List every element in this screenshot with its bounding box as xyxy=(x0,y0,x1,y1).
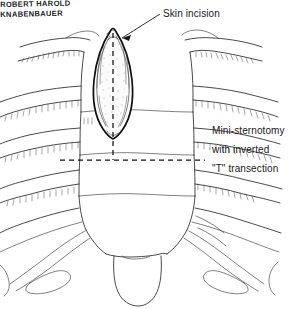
illustration-canvas: Skin incision Mini-sternotomy with inver… xyxy=(0,0,301,309)
procedure-note-line-3: "T" transection xyxy=(212,162,285,177)
ribs-right xyxy=(184,86,282,295)
clavicle-hatching xyxy=(22,51,253,63)
skin-incision-leader xyxy=(122,14,160,41)
ribs-left xyxy=(0,86,90,296)
procedure-note: Mini-sternotomy with inverted "T" transe… xyxy=(212,124,285,181)
procedure-note-line-2: with inverted xyxy=(212,143,285,158)
procedure-note-line-1: Mini-sternotomy xyxy=(212,124,285,139)
xiphoid-process xyxy=(86,230,187,306)
clavicle-group xyxy=(18,30,262,63)
